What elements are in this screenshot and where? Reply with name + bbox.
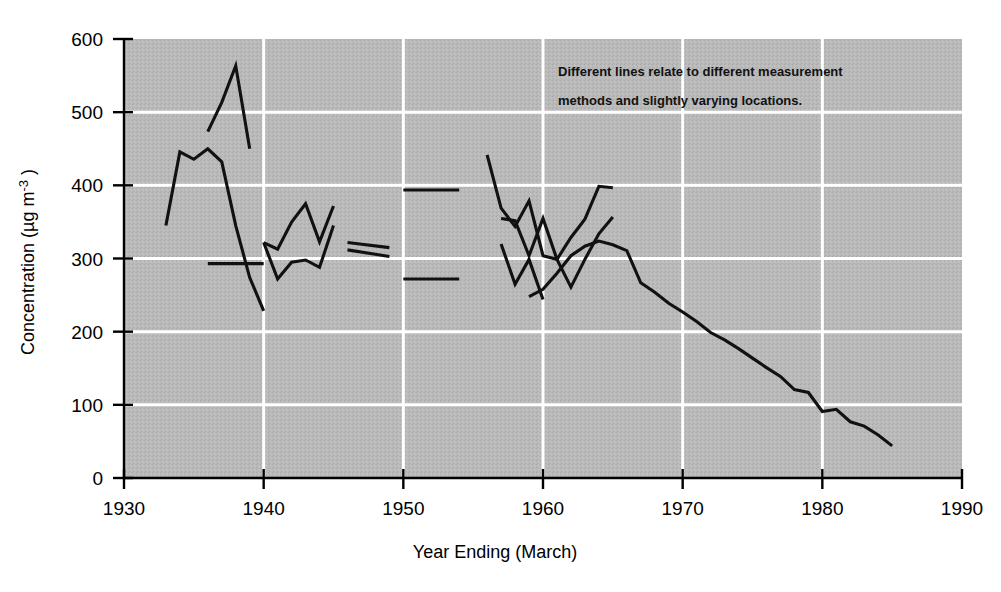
x-tick-label: 1970 (662, 498, 704, 519)
annotation-line-1: Different lines relate to different meas… (558, 64, 843, 79)
svg-text:Concentration (µg m-3 ): Concentration (µg m-3 ) (16, 169, 38, 355)
y-tick-label: 100 (71, 395, 103, 416)
chart-figure: 600 500 400 300 200 100 0 1930 1940 1950… (0, 0, 1001, 592)
y-axis-title-suffix: ) (18, 169, 38, 180)
x-tick-label: 1940 (243, 498, 285, 519)
x-tick-label: 1950 (382, 498, 424, 519)
y-tick-label: 0 (92, 468, 103, 489)
annotation-line-2: methods and slightly varying locations. (558, 93, 802, 108)
x-tick-label: 1960 (522, 498, 564, 519)
x-axis-tick-labels: 1930 1940 1950 1960 1970 1980 1990 (103, 498, 983, 519)
x-tick-label: 1930 (103, 498, 145, 519)
y-axis-title-prefix: Concentration (µg m (18, 192, 38, 355)
y-tick-label: 200 (71, 322, 103, 343)
y-tick-label: 300 (71, 249, 103, 270)
x-tick-label: 1990 (941, 498, 983, 519)
y-axis-title-exponent: -3 (16, 180, 31, 192)
x-tick-label: 1980 (801, 498, 843, 519)
y-tick-label: 500 (71, 102, 103, 123)
x-axis-title: Year Ending (March) (413, 542, 577, 562)
y-tick-label: 400 (71, 175, 103, 196)
y-tick-label: 600 (71, 29, 103, 50)
y-axis-tick-labels: 600 500 400 300 200 100 0 (71, 29, 103, 489)
line-chart: 600 500 400 300 200 100 0 1930 1940 1950… (0, 0, 1001, 592)
y-axis-title: Concentration (µg m-3 ) (16, 169, 38, 355)
